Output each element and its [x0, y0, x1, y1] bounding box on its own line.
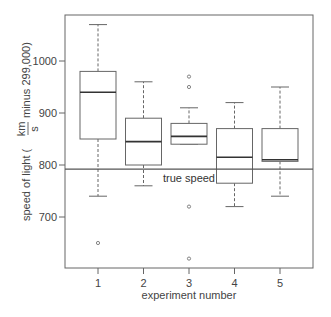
x-tick-label: 1: [95, 277, 101, 289]
reference-label: true speed: [163, 172, 215, 184]
boxes: [80, 25, 298, 261]
y-axis-title: speed of light (kmsminus 299,000): [15, 42, 40, 221]
box-plot: 7008009001000 12345 true speed experimen…: [0, 0, 331, 317]
y-axis-title-suffix: minus 299,000): [20, 42, 32, 118]
y-axis-title-prefix: speed of light (: [20, 149, 32, 221]
y-axis-title-denominator: s: [28, 126, 40, 132]
box-experiment-1: [80, 25, 116, 245]
iqr-box: [80, 71, 116, 139]
y-tick-label: 900: [39, 107, 57, 119]
iqr-box: [171, 123, 207, 144]
outlier-point: [187, 85, 190, 88]
y-axis-title-numerator: km: [15, 122, 27, 137]
true-speed-line: true speed: [65, 169, 313, 185]
box-experiment-2: [126, 82, 162, 186]
x-tick-label: 2: [140, 277, 146, 289]
y-axis: 7008009001000: [33, 55, 65, 223]
y-tick-label: 800: [39, 159, 57, 171]
x-tick-label: 3: [186, 277, 192, 289]
iqr-box: [217, 129, 253, 184]
x-tick-label: 5: [277, 277, 283, 289]
outlier-point: [96, 241, 99, 244]
box-experiment-3: [171, 75, 207, 260]
box-experiment-4: [217, 103, 253, 207]
y-tick-label: 1000: [33, 55, 57, 67]
outlier-point: [187, 75, 190, 78]
iqr-box: [262, 129, 298, 162]
box-experiment-5: [262, 87, 298, 196]
x-axis: 12345: [95, 268, 283, 289]
x-tick-label: 4: [231, 277, 237, 289]
y-tick-label: 700: [39, 211, 57, 223]
x-axis-title: experiment number: [142, 289, 237, 301]
outlier-point: [187, 205, 190, 208]
outlier-point: [187, 257, 190, 260]
